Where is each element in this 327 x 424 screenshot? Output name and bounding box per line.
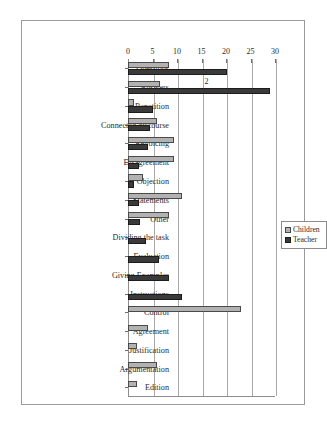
bar-teacher bbox=[128, 219, 140, 225]
x-tick-label: 10 bbox=[173, 47, 181, 57]
bar-row: Agreement bbox=[128, 322, 275, 341]
bar-teacher bbox=[128, 200, 139, 206]
bar-children bbox=[128, 381, 137, 387]
bar-row: Revoicing bbox=[128, 134, 275, 153]
category-label: Agreement bbox=[73, 327, 169, 336]
x-tick-label: 15 bbox=[198, 47, 206, 57]
bar-children bbox=[128, 62, 169, 68]
legend-item-teacher: Teacher bbox=[285, 235, 323, 245]
category-label: Justification bbox=[73, 345, 169, 354]
data-annotation-label: 2 bbox=[204, 77, 208, 86]
bar-children bbox=[128, 212, 169, 218]
x-tick-label: 20 bbox=[222, 47, 230, 57]
chart-frame: 051015202530 QuestionsAnswersRepetitionC… bbox=[21, 20, 305, 405]
bar-children bbox=[128, 99, 134, 105]
bar-row: Evaluation bbox=[128, 247, 275, 266]
x-tick-label: 25 bbox=[247, 47, 255, 57]
bar-teacher bbox=[128, 238, 146, 244]
bar-row: Other bbox=[128, 209, 275, 228]
bar-children bbox=[128, 325, 148, 331]
chart-page: 051015202530 QuestionsAnswersRepetitionC… bbox=[0, 0, 327, 424]
bar-row: Objection bbox=[128, 172, 275, 191]
chart-legend: Children Teacher bbox=[281, 221, 327, 249]
bar-row: Answers bbox=[128, 78, 275, 97]
legend-item-children: Children bbox=[285, 225, 323, 235]
bar-children bbox=[128, 156, 174, 162]
legend-swatch-children-icon bbox=[285, 227, 291, 233]
bar-children bbox=[128, 118, 157, 124]
bar-row: Questions bbox=[128, 59, 275, 78]
bar-teacher bbox=[128, 88, 270, 94]
bar-row: Disagreement bbox=[128, 153, 275, 172]
bar-row: Giving Examples bbox=[128, 265, 275, 284]
bar-row: Control bbox=[128, 303, 275, 322]
bar-teacher bbox=[128, 69, 227, 75]
bar-row: Instructions bbox=[128, 284, 275, 303]
bar-children bbox=[128, 306, 241, 312]
bar-children bbox=[128, 193, 182, 199]
bar-row: Edition bbox=[128, 378, 275, 397]
bar-row: Repetition bbox=[128, 97, 275, 116]
bar-teacher bbox=[128, 181, 134, 187]
bar-row: Connected discourse bbox=[128, 115, 275, 134]
legend-swatch-teacher-icon bbox=[285, 237, 291, 243]
x-tick-label: 5 bbox=[151, 47, 155, 57]
category-label: Repetition bbox=[73, 101, 169, 110]
category-label: Objection bbox=[73, 176, 169, 185]
bar-teacher bbox=[128, 256, 159, 262]
x-axis-labels: 051015202530 bbox=[128, 47, 275, 59]
category-label: Edition bbox=[73, 383, 169, 392]
bar-children bbox=[128, 343, 137, 349]
bar-children bbox=[128, 81, 160, 87]
bar-children bbox=[128, 174, 143, 180]
bar-row: Justification bbox=[128, 340, 275, 359]
x-tick-label: 30 bbox=[271, 47, 279, 57]
bar-children bbox=[128, 362, 157, 368]
bar-row: Statements bbox=[128, 190, 275, 209]
bar-row: Dividing the task bbox=[128, 228, 275, 247]
legend-label-children: Children bbox=[293, 225, 320, 235]
bar-rows: QuestionsAnswersRepetitionConnected disc… bbox=[128, 59, 275, 397]
category-label: Dividing the task bbox=[73, 233, 169, 242]
bar-teacher bbox=[128, 294, 182, 300]
bar-children bbox=[128, 137, 174, 143]
bar-teacher bbox=[128, 163, 139, 169]
x-tick-label: 0 bbox=[126, 47, 130, 57]
bar-teacher bbox=[128, 106, 153, 112]
bar-teacher bbox=[128, 125, 150, 131]
bar-row: Argumentation bbox=[128, 359, 275, 378]
gridline bbox=[276, 59, 277, 396]
legend-label-teacher: Teacher bbox=[293, 235, 317, 245]
bar-teacher bbox=[128, 275, 169, 281]
bar-teacher bbox=[128, 144, 148, 150]
